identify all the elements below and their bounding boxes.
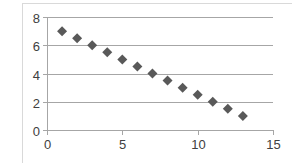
data-point-diamond-icon [102,47,112,57]
y-axis-tick-labels: 02468 [33,11,40,139]
data-point-diamond-icon [87,40,97,50]
data-point-diamond-icon [163,76,173,86]
x-axis-tick-labels: 051015 [44,137,281,152]
data-point-diamond-icon [57,26,67,36]
data-point-diamond-icon [193,90,203,100]
y-tick-label-6: 6 [33,39,40,54]
data-point-diamond-icon [238,111,248,121]
data-point-diamond-icon [132,61,142,71]
x-tick-label-0: 0 [44,137,51,152]
data-point-diamond-icon [208,97,218,107]
y-tick-label-4: 4 [33,68,40,83]
data-point-diamond-icon [117,54,127,64]
data-point-diamond-icon [178,83,188,93]
x-tick-label-10: 10 [191,137,205,152]
data-point-diamond-icon [147,69,157,79]
data-series [57,26,248,121]
y-tick-label-8: 8 [33,11,40,26]
y-tick-label-0: 0 [33,124,40,139]
x-tick-label-15: 15 [266,137,280,152]
gridlines [47,18,273,103]
x-tick-label-5: 5 [119,137,126,152]
scatter-chart: 02468 051015 [0,0,292,163]
data-point-diamond-icon [223,104,233,114]
y-tick-label-2: 2 [33,96,40,111]
data-point-diamond-icon [72,33,82,43]
